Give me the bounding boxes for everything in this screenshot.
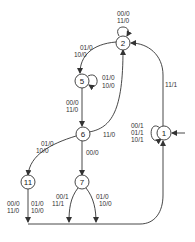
label-s5-s6-a: 00/0	[66, 99, 79, 106]
label-s6-s2: 11/0	[103, 131, 116, 138]
label-s7-out1-b: 11/1	[52, 200, 65, 207]
label-s11-out2-b: 10/0	[31, 207, 44, 214]
edge-7-to-bus-right	[86, 188, 96, 222]
label-s1-loop-a: 00/1	[131, 122, 144, 129]
label-s11-out1-b: 11/0	[7, 207, 20, 214]
state-2: 2	[116, 36, 130, 50]
svg-text:6: 6	[81, 130, 86, 139]
label-s1-loop-b: 01/1	[131, 129, 144, 136]
label-s6-s11-b: 10/0	[36, 147, 49, 154]
svg-text:5: 5	[80, 77, 85, 86]
edge-2-loop	[118, 27, 129, 36]
label-s7-out2-a: 01/0	[96, 193, 109, 200]
label-s11-out1-a: 00/0	[7, 200, 20, 207]
label-s2-loop-a: 00/0	[117, 10, 130, 17]
label-s7-out2-b: 10/0	[99, 200, 112, 207]
edge-1-to-2	[131, 43, 163, 126]
state-6: 6	[76, 127, 90, 141]
label-s6-s7: 00/0	[86, 149, 99, 156]
state-7: 7	[75, 175, 89, 189]
label-s6-s11-a: 01/0	[41, 140, 54, 147]
label-s1-loop-c: 10/1	[131, 136, 144, 143]
state-1: 1	[157, 126, 171, 140]
state-diagram: 2 5 6 11 7 1 00/0 11/0 01/0 10/0 01/0 10…	[0, 0, 195, 242]
svg-text:2: 2	[121, 39, 126, 48]
state-11: 11	[21, 175, 35, 189]
label-s2-loop-b: 11/0	[117, 17, 130, 24]
label-s5-loop-a: 01/0	[102, 74, 115, 81]
svg-text:11: 11	[24, 178, 33, 187]
label-s7-out1-a: 00/1	[56, 193, 69, 200]
state-5: 5	[75, 74, 89, 88]
label-s5-loop-b: 10/0	[102, 82, 115, 89]
edge-6-to-2	[89, 50, 123, 132]
label-s11-out2-a: 01/0	[31, 200, 44, 207]
edge-7-to-bus-left	[69, 188, 78, 222]
svg-text:7: 7	[80, 178, 85, 187]
svg-text:1: 1	[162, 129, 167, 138]
label-s2-s5-b: 10/0	[74, 51, 87, 58]
label-s1-s2: 11/1	[165, 81, 178, 88]
label-s5-s6-b: 11/0	[66, 106, 79, 113]
label-s2-s5-a: 01/0	[80, 44, 93, 51]
